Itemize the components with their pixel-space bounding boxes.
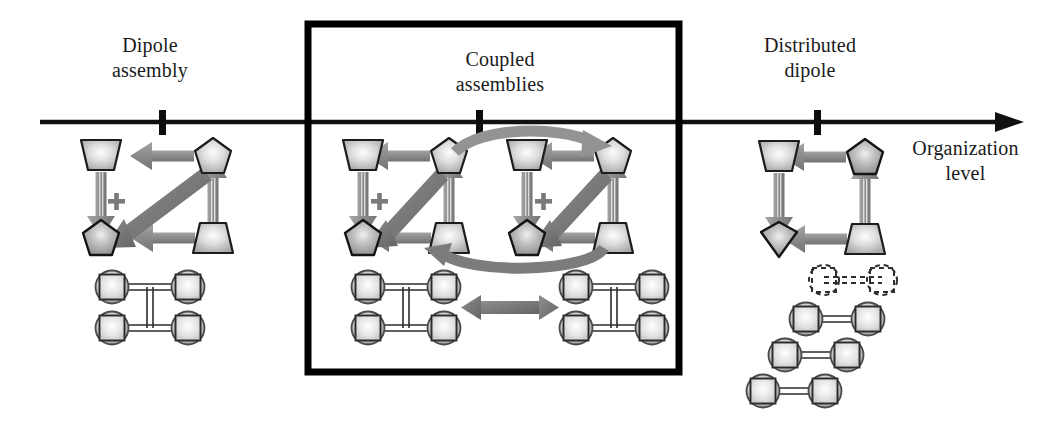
assembly-coupled-left — [343, 138, 469, 255]
h-cluster-2b — [560, 271, 669, 345]
node-pentagon-top-right-1 — [195, 138, 231, 173]
plus-sign-2b — [535, 193, 552, 210]
node-trapezoid-top-left-1 — [81, 140, 121, 170]
node-trapezoid-bottom-right-3 — [845, 224, 885, 254]
assembly-coupled-right — [507, 138, 633, 255]
diagram-canvas: Dipole assembly Coupled assemblies Distr… — [0, 0, 1038, 432]
assembly-dipole — [81, 138, 233, 255]
node-trapezoid-top-left-3 — [759, 141, 799, 171]
node-trapezoid-top-left-2b — [507, 140, 547, 170]
label-organization-level: Organization level — [893, 136, 1038, 186]
h-cluster-1 — [96, 271, 205, 345]
staircase-pair-middle — [769, 339, 864, 372]
node-trapezoid-top-left-2a — [343, 140, 383, 170]
node-pentagon-bottom-left-2b — [509, 220, 545, 255]
node-pentagon-bottom-left-2a — [345, 220, 381, 255]
label-distributed-dipole: Distributed dipole — [710, 33, 910, 83]
staircase-pair-bottom — [747, 375, 842, 408]
label-dipole-assembly: Dipole assembly — [55, 33, 245, 83]
plus-sign-1 — [108, 193, 125, 210]
axis-tick-2 — [476, 110, 483, 135]
node-trapezoid-bottom-right-1 — [193, 223, 233, 253]
arrow-top-left-1 — [130, 142, 194, 170]
label-coupled-assemblies: Coupled assemblies — [400, 47, 600, 97]
plus-sign-2a — [371, 193, 388, 210]
node-pentagon-top-right-3 — [847, 139, 883, 174]
node-pentagon-bottom-left-1 — [83, 220, 119, 255]
arrow-double-headed-link — [461, 295, 559, 320]
ghost-dashed-pair — [809, 265, 897, 295]
h-cluster-2a — [352, 271, 461, 345]
node-kite-bottom-left-3 — [761, 222, 797, 257]
axis-tick-1 — [159, 110, 166, 135]
staircase-pair-top — [790, 303, 885, 336]
axis-tick-3 — [814, 110, 821, 135]
assembly-distributed — [759, 139, 885, 257]
